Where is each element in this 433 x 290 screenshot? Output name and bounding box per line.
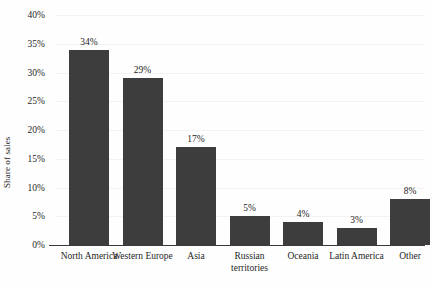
bar[interactable]: [390, 199, 430, 245]
x-axis-line: [49, 245, 425, 246]
bar-value-label: 29%: [116, 65, 170, 76]
y-axis-tick-label: 5%: [19, 211, 45, 221]
bar-slot: 3%: [330, 15, 384, 245]
bar-slot: 34%: [62, 15, 116, 245]
y-axis-tick-label: 15%: [19, 154, 45, 164]
bar[interactable]: [337, 228, 377, 245]
bar[interactable]: [69, 50, 109, 246]
bar[interactable]: [283, 222, 323, 245]
bar[interactable]: [176, 147, 216, 245]
bar-slot: 5%: [223, 15, 277, 245]
bar-slot: 17%: [169, 15, 223, 245]
bar-value-label: 17%: [169, 134, 223, 145]
y-axis-tick-label: 30%: [19, 68, 45, 78]
bar-value-label: 5%: [223, 203, 277, 214]
bar-value-label: 3%: [330, 215, 384, 226]
x-axis-category-label: Other: [379, 250, 433, 262]
bar-slot: 4%: [276, 15, 330, 245]
bar-value-label: 8%: [383, 186, 433, 197]
y-axis-tick-label: 20%: [19, 125, 45, 135]
bar-slot: 29%: [116, 15, 170, 245]
plot-area: 34%29%17%5%4%3%8%: [55, 15, 425, 245]
bar[interactable]: [123, 78, 163, 245]
bar-value-label: 34%: [62, 37, 116, 48]
bar[interactable]: [230, 216, 270, 245]
bar-value-label: 4%: [276, 209, 330, 220]
bar-slot: 8%: [383, 15, 433, 245]
y-axis-tick-label: 25%: [19, 96, 45, 106]
bar-chart: 0%5%10%15%20%25%30%35%40% Share of sales…: [0, 0, 433, 290]
y-axis-tick-label: 35%: [19, 39, 45, 49]
y-axis-tick-label: 40%: [19, 10, 45, 20]
y-axis-tick-label: 0%: [19, 240, 45, 250]
